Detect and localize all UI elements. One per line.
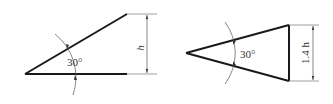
- figure-right: 30° 1.4 h: [186, 22, 319, 84]
- dimension-label-h: h: [134, 45, 146, 51]
- triangle-lower-edge: [186, 53, 289, 81]
- figure-left: 30° h: [25, 14, 157, 95]
- diagram-canvas: 30° h 30° 1.4 h: [0, 0, 333, 104]
- angle-arc-right: [225, 22, 235, 84]
- angle-label-left: 30°: [67, 56, 82, 68]
- triangle-upper-edge: [186, 25, 289, 53]
- dimension-label-1-4h: 1.4 h: [299, 42, 311, 65]
- angle-arrow-lower: [74, 75, 77, 80]
- angle-label-right: 30°: [240, 48, 255, 60]
